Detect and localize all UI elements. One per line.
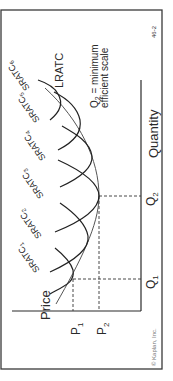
copyright: © Kaplan, Inc. (151, 328, 157, 366)
figure-frame (1, 10, 162, 369)
lratc-label: LRATC (53, 53, 65, 88)
sratc-3-curve (55, 160, 99, 232)
figure-number: 46-2 (151, 25, 157, 38)
sratc-3-label: SRATC3 (18, 167, 46, 201)
mes-annotation-line2: efficient scale (99, 47, 110, 108)
sratc-2-curve (50, 203, 88, 272)
p2-label: P2 (95, 322, 111, 335)
sratc-curves (38, 80, 99, 294)
price-axis-label: Price (38, 290, 53, 320)
p1-label: P1 (69, 322, 85, 335)
sratc-5-label: SRATC5 (14, 91, 42, 125)
q2-label: Q2 (144, 192, 160, 206)
sratc-1-label: SRATC1 (14, 241, 42, 275)
sratc-2-label: SRATC2 (16, 207, 44, 241)
lratc-curve (45, 88, 99, 304)
sratc-4-label: SRATC4 (20, 129, 48, 163)
sratc-6-label: SRATC6 (4, 59, 32, 93)
quantity-axis-label: Quantity (146, 109, 161, 158)
q1-label: Q1 (144, 275, 160, 289)
lratc-diagram: Price Quantity P1 P2 Q1 Q2 LRATC Q2 = mi… (0, 0, 173, 381)
